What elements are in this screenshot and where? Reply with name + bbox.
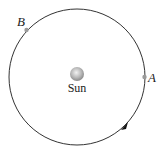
sun-label: Sun [68,81,87,95]
sun-icon [70,67,84,81]
point-b-marker [24,28,28,32]
point-b-label: B [17,14,25,29]
point-a-marker [142,75,146,79]
orbit-diagram: Sun A B [0,0,163,154]
point-a-label: A [147,70,156,85]
